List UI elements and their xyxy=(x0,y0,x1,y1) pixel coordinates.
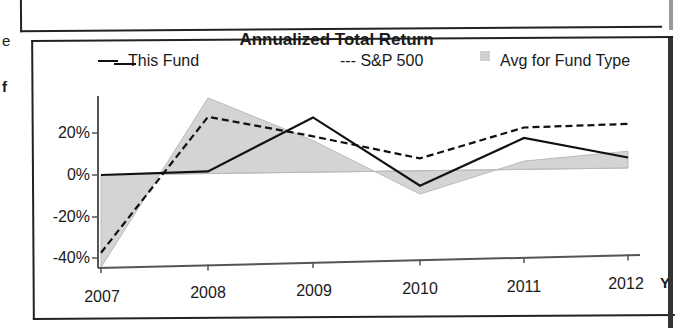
avg-area xyxy=(101,98,628,268)
page-edge xyxy=(668,38,673,328)
page-edge xyxy=(669,0,673,30)
series-line xyxy=(101,117,628,253)
